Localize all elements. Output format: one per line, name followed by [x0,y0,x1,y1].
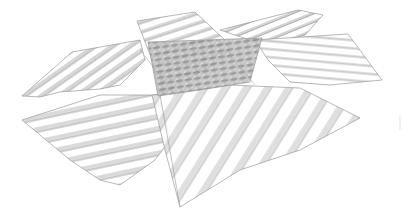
plane-bottom-left [22,95,170,185]
plane-bottom-right [152,85,360,207]
wave-planes-illustration [0,0,403,220]
plane-left-wave [22,40,145,97]
plane-right-wave [255,34,382,85]
